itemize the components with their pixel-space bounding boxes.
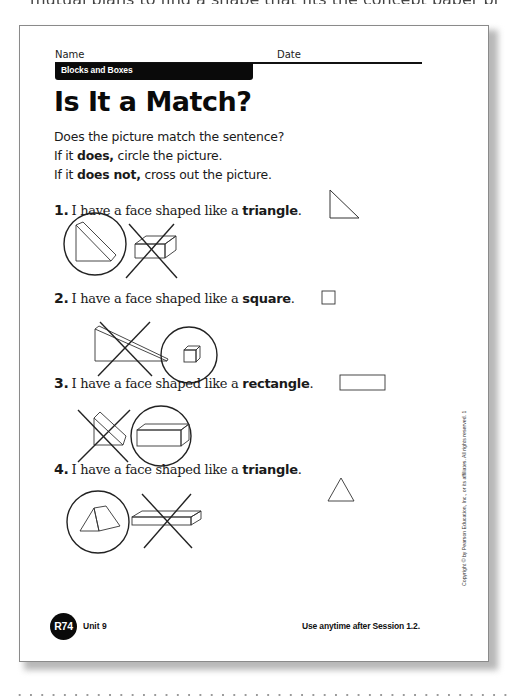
previous-page-fragment: mutual plans to find a shape that fits t… [30,0,500,4]
usage-note: Use anytime after Session 1.2. [302,621,420,631]
circle-mark [67,491,129,553]
triangle-icon [328,478,354,501]
unit-label: Unit 9 [83,621,107,631]
dotted-separator [14,693,514,697]
question-4-figures [20,26,490,663]
worksheet-page: Name Date Blocks and Boxes Is It a Match… [19,25,489,662]
copyright-notice: Copyright © by Pearson Education, Inc., … [461,411,467,586]
page-number-badge: R74 [50,613,77,640]
tent-prism-icon [80,506,120,531]
